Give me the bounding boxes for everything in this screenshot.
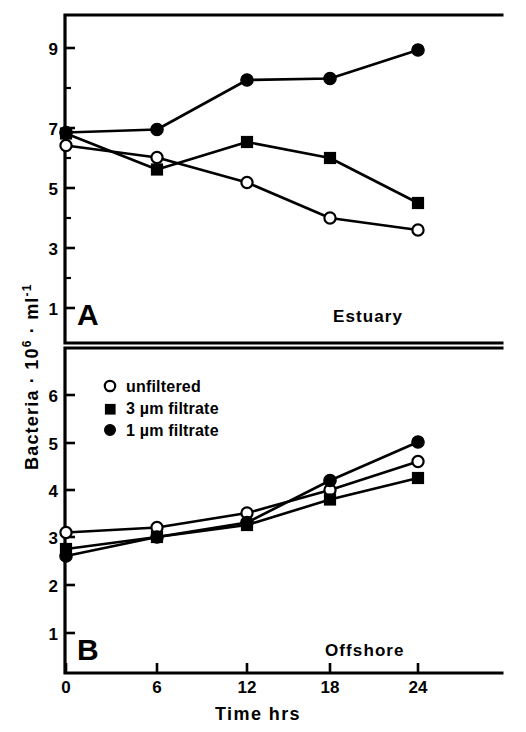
x-axis-title: Time hrs: [215, 704, 301, 724]
panel-b-ytick-label-5: 5: [49, 435, 58, 454]
panel-a-letter: A: [77, 298, 99, 331]
panel-a-point-3um-t24: [413, 198, 424, 209]
panel-b-ytick-label-2: 2: [49, 577, 58, 596]
panel-b-ytick-label-4: 4: [49, 482, 59, 501]
panel-a-series-unfiltered: [60, 140, 423, 236]
legend-filled-square-icon: [106, 405, 116, 415]
xtick-label-18: 18: [321, 678, 340, 697]
panel-a-ytick-label-1: 1: [49, 300, 58, 319]
panel-a-ytick-label-3: 3: [49, 240, 58, 259]
xtick-label-24: 24: [409, 678, 428, 697]
panel-b-y-tick-labels: 6 5 4 3 2 1: [49, 387, 59, 644]
panel-b-frame: [65, 348, 504, 673]
panel-b-point-1um-t12: [241, 516, 253, 528]
legend: unfiltered 3 µm filtrate 1 µm filtrate: [105, 378, 219, 439]
legend-label-unfiltered: unfiltered: [126, 378, 201, 395]
panel-a-series-3um-filtrate: [61, 128, 424, 209]
panel-b-point-1um-t0: [60, 550, 72, 562]
xtick-label-12: 12: [238, 678, 257, 697]
legend-label-1um-filtrate: 1 µm filtrate: [126, 422, 219, 439]
xtick-label-6: 6: [152, 678, 161, 697]
panel-a-point-unfiltered-t18: [324, 212, 335, 223]
panel-b-ytick-label-6: 6: [49, 387, 58, 406]
panel-a-ytick-label-7: 7: [49, 120, 58, 139]
panel-a-point-unfiltered-t0: [60, 140, 71, 151]
panel-a-point-3um-t0: [61, 128, 72, 139]
svg-text:Bacteria · 106 · ml-1: Bacteria · 106 · ml-1: [20, 283, 42, 470]
panel-a-point-1um-t12: [241, 74, 253, 86]
panel-a-point-unfiltered-t6: [151, 152, 162, 163]
panel-b-ytick-label-1: 1: [49, 625, 58, 644]
bacteria-growth-figure: Bacteria · 106 · ml-1 9 7 5 3 1: [0, 0, 526, 732]
panel-a-ytick-label-9: 9: [49, 40, 58, 59]
panel-b-caption: Offshore: [325, 641, 405, 660]
panel-b-point-1um-t6: [151, 531, 163, 543]
y-axis-title-exponent-6: 6: [20, 339, 34, 347]
panel-a-point-1um-t6: [151, 123, 163, 135]
y-axis-title: Bacteria · 106 · ml-1: [20, 283, 42, 470]
panel-b-point-1um-t24: [412, 436, 424, 448]
legend-label-3um-filtrate: 3 µm filtrate: [126, 400, 219, 417]
panel-b-ytick-label-3: 3: [49, 529, 58, 548]
panel-a-ytick-label-5: 5: [49, 180, 58, 199]
panel-a-point-3um-t6: [152, 164, 163, 175]
legend-open-circle-icon: [105, 381, 115, 391]
panel-a-point-1um-t18: [324, 72, 336, 84]
figure-container: Bacteria · 106 · ml-1 9 7 5 3 1: [0, 0, 526, 732]
panel-a-point-3um-t18: [325, 153, 336, 164]
panel-a-point-unfiltered-t12: [241, 177, 252, 188]
panel-a-line-unfiltered: [66, 146, 418, 231]
panel-a-line-1um: [66, 50, 418, 133]
y-axis-title-mid: · ml: [22, 296, 42, 339]
panel-b-letter: B: [77, 633, 99, 666]
panel-a-point-3um-t12: [242, 137, 253, 148]
panel-a-caption: Estuary: [333, 307, 403, 326]
x-axis-tick-labels: 0 6 12 18 24: [61, 678, 428, 697]
panel-b-point-3um-t18: [325, 494, 336, 505]
y-axis-title-exponent-minus1: -1: [20, 283, 34, 296]
panel-a-point-unfiltered-t24: [412, 224, 423, 235]
y-axis-title-main: Bacteria · 10: [22, 347, 42, 470]
panel-b-point-1um-t18: [324, 474, 336, 486]
panel-a-y-tick-labels: 9 7 5 3 1: [49, 40, 58, 319]
panel-b-line-1um: [66, 442, 418, 556]
panel-a-frame: [65, 15, 504, 343]
panel-b-point-3um-t24: [413, 473, 424, 484]
legend-filled-circle-icon: [105, 425, 116, 436]
xtick-label-0: 0: [61, 678, 70, 697]
panel-b-point-unfiltered-t24: [412, 456, 423, 467]
panel-a-point-1um-t24: [412, 44, 424, 56]
panel-b-point-unfiltered-t0: [60, 527, 71, 538]
panel-a-series-1um-filtrate: [60, 44, 424, 139]
